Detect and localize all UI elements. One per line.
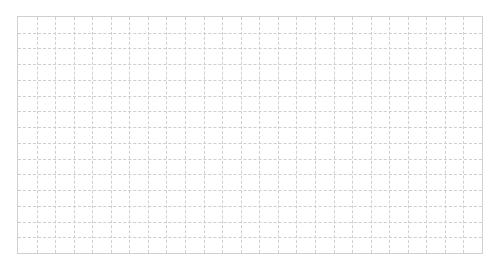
grid-vertical-line (408, 17, 409, 253)
grid-vertical-line (111, 17, 112, 253)
grid-vertical-line (129, 17, 130, 253)
grid-vertical-line (334, 17, 335, 253)
grid-vertical-line (389, 17, 390, 253)
grid-vertical-line (463, 17, 464, 253)
grid-horizontal-line (18, 190, 482, 191)
grid-vertical-line (352, 17, 353, 253)
grid-vertical-line (37, 17, 38, 253)
grid-horizontal-line (18, 33, 482, 34)
grid-vertical-line (55, 17, 56, 253)
grid-horizontal-line (18, 174, 482, 175)
grid-vertical-line (426, 17, 427, 253)
grid-horizontal-line (18, 80, 482, 81)
grid-vertical-line (296, 17, 297, 253)
grid-horizontal-line (18, 143, 482, 144)
grid-horizontal-line (18, 237, 482, 238)
grid-vertical-line (166, 17, 167, 253)
grid-vertical-line (204, 17, 205, 253)
grid-vertical-line (259, 17, 260, 253)
grid-vertical-line (74, 17, 75, 253)
grid-vertical-line (222, 17, 223, 253)
grid-vertical-line (371, 17, 372, 253)
grid-horizontal-line (18, 64, 482, 65)
grid-vertical-line (92, 17, 93, 253)
grid-horizontal-line (18, 96, 482, 97)
grid-horizontal-line (18, 127, 482, 128)
grid-vertical-line (241, 17, 242, 253)
grid-horizontal-line (18, 111, 482, 112)
grid-vertical-line (185, 17, 186, 253)
grid-vertical-line (278, 17, 279, 253)
grid-vertical-line (445, 17, 446, 253)
grid-horizontal-line (18, 206, 482, 207)
grid-horizontal-line (18, 159, 482, 160)
grid-vertical-line (148, 17, 149, 253)
grid-vertical-line (315, 17, 316, 253)
grid-horizontal-line (18, 48, 482, 49)
grid-horizontal-line (18, 222, 482, 223)
grid-canvas (17, 16, 483, 254)
